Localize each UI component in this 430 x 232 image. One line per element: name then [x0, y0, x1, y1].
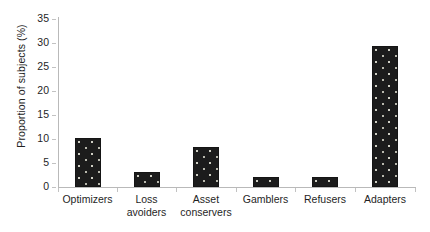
x-label-line-2: avoiders — [117, 206, 176, 219]
x-axis-label-gamblers: Gamblers — [236, 193, 295, 206]
y-tick-mark — [52, 91, 56, 92]
x-axis-label-loss-avoiders: Loss avoiders — [117, 193, 176, 218]
y-tick-label: 15 — [37, 108, 49, 120]
x-label-line-1: Gamblers — [236, 193, 295, 206]
x-label-line-1: Optimizers — [58, 193, 117, 206]
y-tick-label: 0 — [43, 180, 49, 192]
y-tick-label: 35 — [37, 12, 49, 24]
x-axis-tick — [176, 188, 177, 192]
bar-refusers[interactable] — [312, 177, 338, 187]
x-axis-line — [58, 187, 416, 188]
bar-chart-figure: Proportion of subjects (%) 35 30 25 20 1… — [0, 0, 430, 232]
x-axis-label-adapters: Adapters — [355, 193, 415, 206]
bar-gamblers[interactable] — [253, 177, 279, 187]
x-label-line-1: Refusers — [295, 193, 355, 206]
x-axis-tick — [355, 188, 356, 192]
x-axis-tick — [295, 188, 296, 192]
x-label-line-1: Loss — [117, 193, 176, 206]
bar-slot-asset-conservers — [176, 19, 236, 187]
bar-slot-gamblers — [236, 19, 295, 187]
bar-slot-loss-avoiders — [117, 19, 176, 187]
bar-loss-avoiders[interactable] — [134, 172, 160, 187]
y-tick-label: 5 — [43, 156, 49, 168]
y-tick-label: 25 — [37, 60, 49, 72]
y-axis-title: Proportion of subjects (%) — [15, 1, 27, 171]
y-tick-label: 10 — [37, 132, 49, 144]
bar-asset-conservers[interactable] — [193, 147, 219, 187]
y-tick-mark — [52, 67, 56, 68]
y-tick-mark — [52, 187, 56, 188]
bar-slot-adapters — [355, 19, 415, 187]
x-axis-label-refusers: Refusers — [295, 193, 355, 206]
x-label-line-1: Asset — [176, 193, 236, 206]
y-tick-mark — [52, 163, 56, 164]
x-label-line-1: Adapters — [355, 193, 415, 206]
x-axis-label-asset-conservers: Asset conservers — [176, 193, 236, 218]
y-tick-mark — [52, 19, 56, 20]
x-axis-tick — [117, 188, 118, 192]
x-axis-tick — [415, 188, 416, 192]
bar-optimizers[interactable] — [75, 138, 101, 187]
bar-slot-refusers — [295, 19, 355, 187]
y-tick-label: 20 — [37, 84, 49, 96]
y-tick-mark — [52, 115, 56, 116]
x-axis-tick — [58, 188, 59, 192]
bar-slot-optimizers — [58, 19, 117, 187]
y-tick-mark — [52, 43, 56, 44]
x-label-line-2: conservers — [176, 206, 236, 219]
x-axis-label-optimizers: Optimizers — [58, 193, 117, 206]
bar-adapters[interactable] — [372, 46, 398, 187]
x-axis-tick — [236, 188, 237, 192]
y-tick-label: 30 — [37, 36, 49, 48]
y-tick-mark — [52, 139, 56, 140]
